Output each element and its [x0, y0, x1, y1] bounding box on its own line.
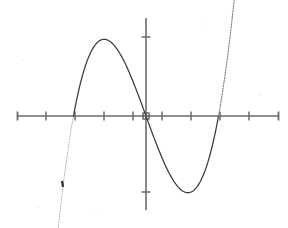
curve-tail-upper-right [219, 0, 278, 116]
plot-canvas [0, 0, 288, 228]
cubic-function-graph [0, 0, 288, 228]
curve-tail-lower-left [17, 116, 74, 228]
scan-speckle [22, 24, 261, 213]
lower-left-tail-dash [62, 181, 63, 187]
curve-segment-rising-right [188, 116, 219, 193]
cubic-curve-group [17, 0, 278, 228]
curve-segment-rising-left [74, 39, 105, 116]
